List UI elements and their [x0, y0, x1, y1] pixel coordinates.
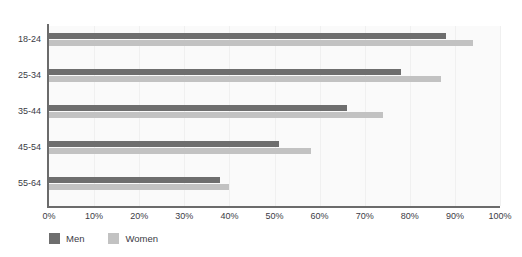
- x-tick-label: 70%: [345, 211, 385, 221]
- gridline: [455, 26, 456, 206]
- x-tick-label: 30%: [164, 211, 204, 221]
- bar-women: [49, 40, 473, 46]
- x-tick-label: 0%: [29, 211, 69, 221]
- bar-women: [49, 148, 311, 154]
- bar-men: [49, 69, 401, 75]
- bar-women: [49, 112, 383, 118]
- bar-women: [49, 76, 441, 82]
- legend-label: Women: [125, 233, 158, 244]
- legend-item-women[interactable]: Women: [108, 233, 158, 244]
- chart-title-strip: [0, 0, 522, 5]
- x-tick-label: 10%: [74, 211, 114, 221]
- bar-women: [49, 184, 229, 190]
- y-category-label: 35-44: [0, 106, 41, 116]
- bar-men: [49, 141, 279, 147]
- y-category-label: 25-34: [0, 70, 41, 80]
- bar-chart-figure: 0%10%20%30%40%50%60%70%80%90%100%18-2425…: [0, 0, 522, 257]
- chart-legend: MenWomen: [49, 233, 182, 244]
- x-tick-label: 80%: [390, 211, 430, 221]
- x-tick-label: 90%: [435, 211, 475, 221]
- bar-men: [49, 33, 446, 39]
- plot-area: [49, 26, 500, 206]
- x-tick-label: 60%: [300, 211, 340, 221]
- legend-swatch-icon: [49, 233, 60, 244]
- gridline: [410, 26, 411, 206]
- x-tick-label: 40%: [209, 211, 249, 221]
- x-tick-label: 20%: [119, 211, 159, 221]
- bar-men: [49, 177, 220, 183]
- y-category-label: 18-24: [0, 34, 41, 44]
- legend-item-men[interactable]: Men: [49, 233, 84, 244]
- legend-swatch-icon: [108, 233, 119, 244]
- x-tick-label: 50%: [255, 211, 295, 221]
- gridline: [500, 26, 501, 206]
- y-category-label: 55-64: [0, 178, 41, 188]
- bar-men: [49, 105, 347, 111]
- y-axis-line: [47, 24, 49, 208]
- x-axis-line: [47, 206, 500, 208]
- legend-label: Men: [66, 233, 84, 244]
- x-tick-label: 100%: [480, 211, 520, 221]
- y-category-label: 45-54: [0, 142, 41, 152]
